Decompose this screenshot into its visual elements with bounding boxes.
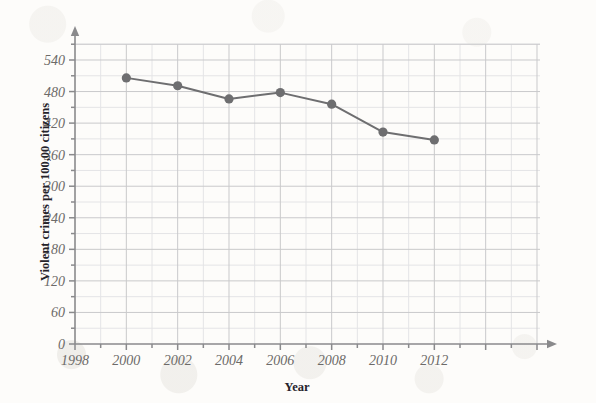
x-tick-label: 2002 [164, 353, 192, 368]
x-tick-label: 2012 [420, 353, 448, 368]
y-axis-ticks [69, 44, 75, 344]
data-point-2006 [276, 88, 285, 97]
minor-gridlines [75, 44, 540, 344]
axis-lines [71, 26, 557, 348]
x-tick-label: 2004 [215, 353, 243, 368]
x-tick-label: 2008 [318, 353, 346, 368]
y-tick-label: 540 [44, 53, 65, 68]
data-point-2004 [224, 94, 233, 103]
y-tick-label: 0 [58, 337, 65, 352]
y-axis-title: Violent crimes per 100,00 citizens [38, 103, 52, 281]
chart-page: 060120180240300360420480540 199820002002… [0, 0, 596, 403]
major-gridlines [75, 44, 540, 344]
data-point-2008 [327, 100, 336, 109]
x-axis-title: Year [285, 380, 310, 394]
data-point-2002 [173, 81, 182, 90]
y-tick-label: 60 [51, 305, 65, 320]
x-tick-label: 2006 [266, 353, 294, 368]
x-tick-label: 2010 [369, 353, 397, 368]
y-tick-label: 480 [44, 85, 65, 100]
x-tick-label: 2000 [112, 353, 140, 368]
x-tick-label: 1998 [61, 353, 89, 368]
data-point-2000 [122, 73, 131, 82]
line-chart: 060120180240300360420480540 199820002002… [0, 0, 596, 403]
x-axis-tick-labels: 19982000200220042006200820102012 [61, 353, 448, 368]
data-point-2010 [378, 127, 387, 136]
x-axis-ticks [75, 344, 537, 350]
data-point-2012 [430, 135, 439, 144]
